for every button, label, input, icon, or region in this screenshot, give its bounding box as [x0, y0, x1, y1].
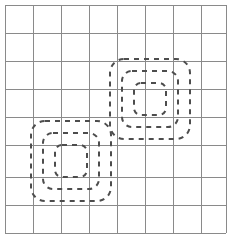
dashed-cluster-lower-left-ring-2	[55, 145, 87, 177]
dashed-cluster-lower-left	[31, 121, 111, 201]
dashed-shapes-layer	[31, 59, 190, 201]
figure-canvas	[0, 0, 227, 234]
dashed-cluster-upper-right-ring-1	[122, 71, 178, 127]
dashed-cluster-lower-left-ring-1	[43, 133, 99, 189]
dashed-cluster-upper-right	[110, 59, 190, 139]
background-grid	[5, 5, 227, 234]
figure-svg	[0, 0, 227, 234]
dashed-cluster-upper-right-ring-2	[134, 83, 166, 115]
